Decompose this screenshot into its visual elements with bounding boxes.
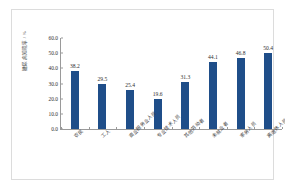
bar-value-label: 44.1 [208,54,218,60]
bar-value-label: 31.3 [180,74,190,80]
x-axis-tick-mark [116,127,117,129]
y-axis-tick-label: 60.0 [49,35,61,41]
x-axis-tick-mark [144,127,145,129]
chart-figure: 糖尿病知晓率 / % 0.010.020.030.040.050.060.0 3… [0,0,285,189]
x-axis-tick-mark [227,127,228,129]
bar-value-label: 50.4 [263,45,273,51]
x-axis-tick-mark [172,127,173,129]
bar-slot: 25.4 [116,38,144,129]
x-axis-tick-mark [89,127,90,129]
y-axis-tick-label: 10.0 [49,111,61,117]
bar-slot: 46.8 [227,38,255,129]
bar [181,82,189,129]
y-axis-tick-label: 50.0 [49,50,61,56]
x-axis-tick-mark [61,127,62,129]
y-axis-tick-label: 0.0 [51,126,61,132]
y-axis-tick-label: 20.0 [49,96,61,102]
bar-value-label: 46.8 [236,50,246,56]
bar-value-label: 38.2 [70,63,80,69]
bar [237,58,245,129]
bar [126,90,134,129]
bar [264,53,272,129]
bar-slot: 38.2 [61,38,89,129]
chart-frame: 糖尿病知晓率 / % 0.010.020.030.040.050.060.0 3… [11,9,274,180]
y-axis-tick-label: 30.0 [49,81,61,87]
bar-slot: 44.1 [199,38,227,129]
bar [71,71,79,129]
y-axis-tick-label: 40.0 [49,65,61,71]
bar-value-label: 19.6 [153,91,163,97]
bar-slot: 29.5 [89,38,117,129]
bar [209,62,217,129]
y-axis-title: 糖尿病知晓率 / % [21,11,27,91]
x-axis-tick-mark [199,127,200,129]
bar [98,84,106,129]
bar-value-label: 29.5 [98,76,108,82]
bar-slot: 50.4 [254,38,282,129]
bar-value-label: 25.4 [125,82,135,88]
x-axis-tick-mark [282,127,283,129]
